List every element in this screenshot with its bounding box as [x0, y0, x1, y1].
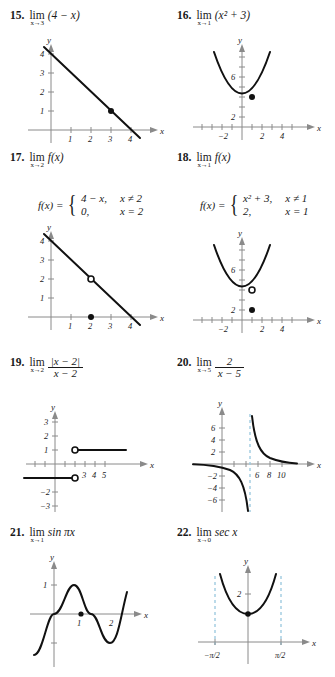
y-axis-label: y — [237, 228, 242, 238]
fraction-numerator: 2 — [215, 356, 244, 367]
filled-point — [78, 611, 83, 616]
problem-21-limit: lim x→1 — [29, 527, 44, 539]
y-axis-label: y — [46, 222, 51, 232]
y-tick-label: 3 — [43, 417, 48, 427]
x-axis-label: x — [316, 316, 321, 326]
y-tick-label: 1 — [44, 445, 48, 455]
y-tick-label: 3 — [39, 68, 44, 78]
y-tick-label: 1 — [43, 580, 47, 590]
x-tick-label: 4 — [280, 131, 285, 141]
problem-20-limit: lim x→5 — [196, 357, 211, 369]
problem-21-statement: 21. lim x→1 sin πx — [0, 527, 167, 539]
x-tick-label-left: −π/2 — [204, 651, 220, 660]
y-axis-arrow — [219, 407, 225, 415]
x-tick-label: 6 — [255, 470, 260, 480]
x-axis-label: x — [149, 460, 154, 470]
problem-15: 15. lim x→3 (4 − x) — [0, 10, 167, 22]
y-tick-label: −3 — [40, 501, 50, 511]
function-notation: f(x) = — [38, 199, 63, 211]
problem-19-statement: 19. lim x→2 |x − 2| x − 2 — [0, 357, 167, 380]
problem-18-number: 18. — [177, 152, 191, 164]
x-axis-label: x — [316, 460, 321, 470]
x-tick-label: 4 — [128, 321, 133, 331]
y-axis-label: y — [46, 35, 51, 45]
y-axis-arrow — [52, 411, 58, 419]
problem-20-graph: x y 6 8 10 2 4 6 −2 −4 −6 — [185, 398, 335, 516]
problem-19: 19. lim x→2 |x − 2| x − 2 — [0, 357, 167, 380]
y-tick-label: 3 — [39, 255, 44, 265]
x-tick-label: 2 — [260, 324, 265, 334]
limit-approach: x→1 — [197, 20, 210, 27]
limit-approach: x→3 — [30, 20, 43, 27]
problem-22-expression: sec x — [215, 527, 238, 539]
y-tick-label: 4 — [40, 49, 45, 59]
problem-21-expression: sin πx — [48, 527, 75, 539]
y-axis-arrow — [239, 44, 245, 52]
problem-15-number: 15. — [10, 10, 24, 22]
y-axis-label: y — [237, 35, 242, 45]
limit-approach: x→1 — [30, 537, 43, 544]
x-axis-arrow — [150, 127, 158, 133]
problem-18-statement: 18. lim x→1 f(x) — [167, 152, 334, 164]
x-tick-label: 3 — [107, 134, 112, 144]
brace-icon: { — [68, 194, 77, 215]
problem-22-limit: lim x→0 — [196, 527, 211, 539]
problem-18-piecewise: f(x) = { x² + 3, x ≠ 1 2, x = 1 — [200, 192, 309, 217]
case-condition: x ≠ 2 — [120, 192, 143, 204]
open-point — [249, 287, 255, 293]
fraction-denominator: x − 5 — [215, 367, 244, 379]
y-tick-label: 6 — [231, 72, 236, 82]
x-tick-label: 1 — [77, 618, 81, 628]
x-axis-label: x — [159, 126, 164, 136]
y-tick-label: 6 — [211, 423, 216, 433]
y-tick-label: 2 — [237, 589, 242, 599]
case-value: x² + 3, — [243, 192, 272, 204]
x-tick-label: 10 — [277, 470, 286, 480]
y-tick-label: 2 — [40, 274, 45, 284]
problem-18: 18. lim x→1 f(x) — [167, 152, 334, 164]
x-tick-label: 3 — [81, 470, 86, 480]
case-condition: x = 2 — [120, 205, 143, 217]
problem-21-number: 21. — [10, 527, 24, 539]
problem-22-number: 22. — [177, 527, 191, 539]
textbook-exercise-page: 15. lim x→3 (4 − x) x y 1 2 3 4 — [0, 0, 335, 677]
open-point — [72, 475, 78, 481]
problem-18-limit: lim x→1 — [196, 152, 211, 164]
x-tick-label: 2 — [88, 321, 93, 331]
open-point — [72, 447, 78, 453]
x-tick-label-right: π/2 — [275, 651, 285, 660]
limit-approach: x→2 — [30, 367, 43, 374]
problem-17-piecewise: f(x) = { 4 − x, x ≠ 2 0, x = 2 — [38, 192, 143, 217]
problem-15-statement: 15. lim x→3 (4 − x) — [0, 10, 167, 22]
y-tick-label: 1 — [40, 106, 44, 116]
x-axis-label: x — [143, 610, 148, 620]
x-axis-arrow — [307, 124, 315, 130]
y-tick-label: 4 — [40, 236, 45, 246]
case-condition: x ≠ 1 — [285, 192, 308, 204]
x-axis-label: x — [311, 638, 316, 648]
x-tick-label: −2 — [218, 324, 229, 334]
fraction-numerator: |x − 2| — [48, 356, 83, 367]
x-tick-label: 8 — [267, 470, 272, 480]
line-curve — [44, 47, 140, 138]
x-tick-label: 2 — [260, 131, 265, 141]
fraction-denominator: x − 2 — [48, 367, 83, 379]
case-value: 2, — [243, 205, 272, 217]
problem-22: 22. lim x→0 sec x — [167, 527, 334, 539]
problem-15-expression: (4 − x) — [48, 10, 80, 22]
problem-16: 16. lim x→1 (x² + 3) — [167, 10, 334, 22]
y-axis-label: y — [50, 402, 55, 412]
problem-19-limit: lim x→2 — [29, 357, 44, 369]
open-point — [88, 276, 94, 282]
right-branch — [252, 416, 297, 464]
x-tick-label: −2 — [218, 131, 229, 141]
problem-22-statement: 22. lim x→0 sec x — [167, 527, 334, 539]
problem-16-number: 16. — [177, 10, 191, 22]
x-tick-label: 1 — [68, 321, 72, 331]
piecewise-cases: 4 − x, x ≠ 2 0, x = 2 — [81, 192, 143, 217]
x-axis-label: x — [316, 123, 321, 133]
limit-approach: x→1 — [197, 162, 210, 169]
x-tick-label: 4 — [280, 324, 285, 334]
y-tick-label: 4 — [211, 435, 216, 445]
x-tick-label: 2 — [109, 618, 114, 628]
